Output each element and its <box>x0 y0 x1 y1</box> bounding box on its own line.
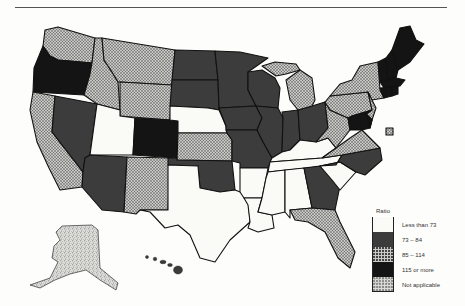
legend-label: 115 or more <box>402 267 434 273</box>
legend-title: Ratio <box>376 208 462 214</box>
state-rhode-island <box>392 86 398 96</box>
legend-item-less-than-73: Less than 73 <box>372 217 462 232</box>
state-colorado <box>133 118 178 158</box>
state-alaska <box>30 225 118 290</box>
swatch-black <box>372 262 394 277</box>
state-dc-box <box>386 128 393 135</box>
state-hawaii <box>146 256 183 275</box>
state-north-dakota <box>172 50 218 80</box>
legend-item-85-114: 85 – 114 <box>372 247 462 262</box>
state-nebraska <box>170 106 227 133</box>
state-wyoming <box>120 82 172 120</box>
legend-label: 85 – 114 <box>402 252 425 258</box>
legend-item-not-applicable: Not applicable <box>372 277 462 292</box>
state-florida <box>290 208 355 268</box>
legend-label: Less than 73 <box>402 222 436 228</box>
state-new-mexico <box>124 157 170 214</box>
swatch-darkgray <box>372 232 394 247</box>
legend-item-115-or-more: 115 or more <box>372 262 462 277</box>
swatch-stipple <box>372 277 394 292</box>
swatch-white <box>372 217 394 232</box>
legend: Ratio Less than 73 73 – 84 85 – 114 115 … <box>372 208 462 292</box>
state-arizona <box>82 155 127 212</box>
swatch-hatch <box>372 247 394 262</box>
state-maine <box>392 26 424 70</box>
state-south-dakota <box>170 80 219 110</box>
state-kansas <box>177 133 232 161</box>
legend-item-73-84: 73 – 84 <box>372 232 462 247</box>
legend-label: Not applicable <box>402 282 440 288</box>
state-michigan <box>286 70 315 110</box>
legend-label: 73 – 84 <box>402 237 422 243</box>
state-iowa <box>219 106 262 130</box>
